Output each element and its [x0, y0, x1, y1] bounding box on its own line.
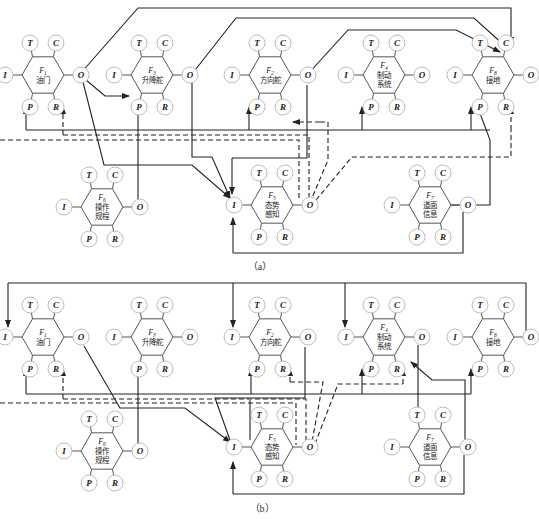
aspect-t: T	[81, 411, 97, 427]
function-name: 系统	[377, 79, 392, 89]
svg-text:I: I	[231, 442, 236, 452]
svg-text:C: C	[53, 38, 60, 48]
svg-text:T: T	[368, 38, 374, 48]
svg-text:C: C	[282, 410, 289, 420]
svg-text:I: I	[111, 70, 116, 80]
aspect-i: I	[224, 329, 240, 345]
aspect-o: O	[182, 329, 198, 345]
aspect-p: P	[363, 361, 379, 377]
svg-text:R: R	[279, 364, 286, 374]
svg-text:O: O	[187, 332, 194, 342]
aspect-p: P	[131, 361, 147, 377]
aspect-o: O	[460, 439, 476, 455]
aspect-c: C	[107, 167, 123, 183]
aspect-r: R	[498, 361, 514, 377]
svg-text:O: O	[307, 200, 314, 210]
aspect-c: C	[48, 35, 64, 51]
aspect-p: P	[81, 475, 97, 491]
svg-text:C: C	[53, 300, 60, 310]
svg-text:I: I	[2, 332, 7, 342]
function-name: 操作	[95, 202, 110, 212]
aspect-p: P	[472, 361, 488, 377]
svg-text:R: R	[52, 364, 59, 374]
svg-text:R: R	[161, 102, 168, 112]
function-name: 制动	[377, 70, 392, 80]
svg-text:T: T	[256, 410, 262, 420]
aspect-c: C	[157, 35, 173, 51]
function-name: 方向舵	[260, 75, 282, 85]
svg-text:P: P	[254, 364, 260, 374]
aspect-p: P	[409, 229, 425, 245]
svg-text:I: I	[61, 446, 66, 456]
aspect-t: T	[409, 165, 425, 181]
aspect-i: I	[447, 67, 463, 83]
aspect-t: T	[472, 35, 488, 51]
svg-text:P: P	[477, 102, 483, 112]
svg-text:I: I	[229, 332, 234, 342]
svg-text:P: P	[136, 102, 142, 112]
svg-text:I: I	[111, 332, 116, 342]
svg-text:O: O	[528, 70, 535, 80]
hexagon-shape	[131, 57, 173, 93]
function-node-f7: TCIOPRF7道面信息	[384, 165, 476, 245]
function-node-f1: TCIOPRF1油门	[0, 35, 89, 115]
svg-text:T: T	[254, 38, 260, 48]
function-node-f2: TCIOPRF2方向舵	[224, 35, 316, 115]
aspect-r: R	[48, 99, 64, 115]
aspect-p: P	[251, 471, 267, 487]
aspect-p: P	[251, 229, 267, 245]
svg-text:O: O	[137, 202, 144, 212]
svg-text:C: C	[440, 410, 447, 420]
aspect-o: O	[73, 67, 89, 83]
aspect-c: C	[277, 407, 293, 423]
aspect-i: I	[0, 67, 13, 83]
function-node-f3: TCIOPRF3升降舵	[106, 297, 198, 377]
svg-text:C: C	[112, 414, 119, 424]
aspect-c: C	[275, 297, 291, 313]
function-name: 规程	[95, 211, 110, 221]
aspect-c: C	[435, 407, 451, 423]
aspect-i: I	[106, 329, 122, 345]
function-name: 操作	[95, 446, 110, 456]
aspect-p: P	[249, 99, 265, 115]
aspect-t: T	[22, 35, 38, 51]
aspect-c: C	[498, 35, 514, 51]
aspect-o: O	[414, 67, 430, 83]
aspect-o: O	[460, 197, 476, 213]
aspect-r: R	[277, 471, 293, 487]
panel-b-caption: （b）	[250, 503, 275, 514]
svg-text:C: C	[162, 38, 169, 48]
svg-text:O: O	[78, 332, 85, 342]
panel-a-caption: （a）	[248, 261, 272, 272]
function-name: 道面	[423, 200, 438, 210]
svg-text:P: P	[368, 102, 374, 112]
aspect-c: C	[48, 297, 64, 313]
aspect-i: I	[106, 67, 122, 83]
function-name: 态势	[265, 200, 280, 210]
aspect-c: C	[275, 35, 291, 51]
hexagon-shape	[22, 57, 64, 93]
svg-text:O: O	[419, 70, 426, 80]
function-name: 接地	[486, 75, 501, 85]
function-node-f1: TCIOPRF1油门	[0, 297, 89, 377]
aspect-r: R	[107, 475, 123, 491]
function-name: 规程	[95, 455, 110, 465]
aspect-p: P	[22, 99, 38, 115]
hexagon-shape	[249, 57, 291, 93]
aspect-r: R	[275, 99, 291, 115]
hexagon-shape	[472, 319, 514, 355]
function-node-f8: TCIOPRF8接地	[447, 297, 539, 377]
aspect-i: I	[226, 197, 242, 213]
svg-text:P: P	[414, 474, 420, 484]
aspect-i: I	[384, 197, 400, 213]
svg-text:C: C	[112, 170, 119, 180]
aspect-p: P	[131, 99, 147, 115]
function-node-f5: TCIOPRF5态势感知	[226, 165, 318, 245]
function-name: 态势	[265, 442, 280, 452]
aspect-t: T	[409, 407, 425, 423]
aspect-t: T	[472, 297, 488, 313]
aspect-o: O	[132, 199, 148, 215]
aspect-r: R	[157, 361, 173, 377]
svg-text:P: P	[414, 232, 420, 242]
aspect-i: I	[384, 439, 400, 455]
